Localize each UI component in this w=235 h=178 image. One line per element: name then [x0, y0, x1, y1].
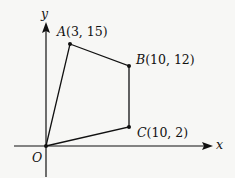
point-B-name: B [136, 52, 145, 67]
y-axis-label: y [41, 8, 48, 21]
point-A-label: A(3, 15) [57, 26, 108, 39]
point-A [68, 42, 72, 46]
point-O [44, 144, 48, 148]
point-A-coords: (3, 15) [66, 24, 108, 39]
point-A-name: A [57, 24, 66, 39]
x-axis-label: x [216, 139, 223, 152]
point-C [127, 125, 131, 129]
point-C-coords: (10, 2) [147, 125, 189, 140]
quadrilateral-diagram: y x O A(3, 15) B(10, 12) C(10, 2) [0, 0, 235, 178]
quadrilateral-OABC [46, 44, 129, 146]
point-C-name: C [137, 125, 147, 140]
origin-label: O [32, 152, 42, 165]
point-B-coords: (10, 12) [145, 52, 195, 67]
point-C-label: C(10, 2) [137, 127, 188, 140]
point-B-label: B(10, 12) [136, 54, 195, 67]
point-B [127, 64, 131, 68]
